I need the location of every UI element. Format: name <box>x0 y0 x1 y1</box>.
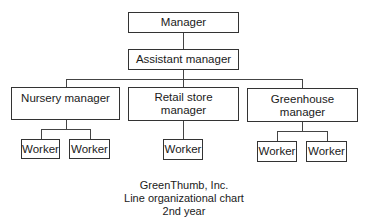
node-label: Retail store manager <box>149 91 218 117</box>
connector-nursery-workers-bus <box>41 129 91 130</box>
chart-caption: GreenThumb, Inc. Line organizational cha… <box>0 179 368 218</box>
node-greenhouse-worker-2: Worker <box>306 141 347 162</box>
connector-bus-greenhouse <box>302 79 303 88</box>
node-greenhouse-worker-1: Worker <box>257 141 297 162</box>
node-nursery-worker-2: Worker <box>69 139 110 159</box>
node-label: Worker <box>165 143 202 156</box>
node-manager: Manager <box>128 12 239 33</box>
connector-nursery-down <box>66 120 67 129</box>
node-label: Greenhouse manager <box>248 93 357 119</box>
connector-nursery-worker-2 <box>90 129 91 139</box>
node-label: Worker <box>71 143 108 156</box>
node-label: Worker <box>22 143 59 156</box>
node-nursery-worker-1: Worker <box>21 139 60 159</box>
caption-subtitle: 2nd year <box>0 205 368 218</box>
node-label: Nursery manager <box>21 92 110 105</box>
node-retail-worker-1: Worker <box>163 139 203 160</box>
node-label: Assistant manager <box>136 53 231 66</box>
node-label: Worker <box>259 145 296 158</box>
connector-greenhouse-worker-1 <box>277 131 278 141</box>
connector-managers-bus <box>66 79 303 80</box>
node-assistant-manager: Assistant manager <box>128 49 239 70</box>
connector-greenhouse-worker-2 <box>327 131 328 141</box>
connector-retail-down <box>183 121 184 139</box>
connector-nursery-worker-1 <box>41 129 42 139</box>
node-label: Worker <box>308 145 345 158</box>
connector-greenhouse-down <box>302 122 303 131</box>
caption-company: GreenThumb, Inc. <box>0 179 368 192</box>
connector-greenhouse-workers-bus <box>277 131 328 132</box>
node-greenhouse-manager: Greenhouse manager <box>247 88 358 122</box>
node-retail-store-manager: Retail store manager <box>128 87 239 121</box>
caption-title: Line organizational chart <box>0 192 368 205</box>
node-nursery-manager: Nursery manager <box>11 87 120 120</box>
connector-manager-assistant <box>183 33 184 49</box>
node-label: Manager <box>161 16 206 29</box>
connector-bus-nursery <box>66 79 67 87</box>
